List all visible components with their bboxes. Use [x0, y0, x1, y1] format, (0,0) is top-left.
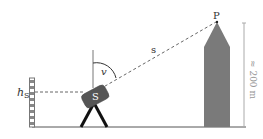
surveying-diagram: hS S v s P ≈ 200 m	[0, 0, 263, 139]
instrument-label: S	[92, 91, 99, 102]
tripod	[81, 103, 107, 127]
tower-height-label: ≈ 200 m	[248, 60, 258, 99]
angle-label: v	[101, 66, 107, 77]
tower	[204, 22, 230, 127]
station-height-label: hS	[17, 86, 30, 100]
point-label: P	[213, 10, 220, 21]
height-dimension-line	[242, 23, 246, 127]
target-point-p	[216, 21, 218, 23]
line-of-sight-s	[100, 22, 216, 89]
distance-label: s	[151, 44, 156, 55]
leveling-staff	[30, 78, 35, 127]
